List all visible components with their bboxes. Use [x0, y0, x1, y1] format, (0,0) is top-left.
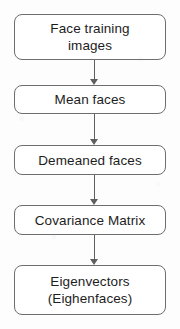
flow-node-label: Mean faces: [51, 91, 130, 108]
flow-node-label: Face training images: [46, 20, 133, 54]
arrow-stem: [94, 235, 95, 259]
flow-node-demeaned-faces: Demeaned faces: [14, 145, 166, 175]
arrow-stem: [94, 60, 95, 79]
flow-node-label: Eigenvectors (Eighenfaces): [44, 273, 137, 307]
flow-node-mean-faces: Mean faces: [14, 85, 166, 114]
arrow-down-icon-2: [89, 114, 101, 145]
flow-node-eigenvectors: Eigenvectors (Eighenfaces): [14, 265, 166, 315]
flow-node-label: Covariance Matrix: [31, 212, 149, 229]
arrow-down-icon-3: [89, 175, 101, 205]
arrow-down-icon-1: [89, 60, 101, 85]
arrow-down-icon-4: [89, 235, 101, 265]
flow-node-covariance-matrix: Covariance Matrix: [14, 205, 166, 235]
arrow-stem: [94, 175, 95, 199]
flowchart-diagram: Face training images Mean faces Demeaned…: [0, 0, 180, 329]
arrow-stem: [94, 114, 95, 139]
flow-node-face-training-images: Face training images: [14, 14, 166, 60]
flow-node-label: Demeaned faces: [34, 152, 145, 169]
